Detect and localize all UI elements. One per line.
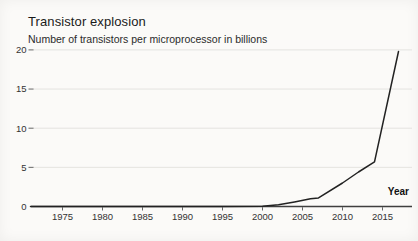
- x-axis-title: Year: [388, 186, 409, 197]
- y-tick-label: 0: [21, 201, 26, 212]
- x-tick-label: 1995: [212, 211, 233, 222]
- x-tick-label: 2015: [372, 211, 393, 222]
- x-tick-label: 1985: [132, 211, 153, 222]
- x-tick-label: 1975: [52, 211, 73, 222]
- x-tick-label: 1990: [172, 211, 193, 222]
- y-tick-label: 5: [21, 162, 26, 173]
- chart-card: Transistor explosion Number of transisto…: [0, 0, 418, 241]
- transistor-line-chart: 0510152019751980198519901995200020052010…: [0, 0, 418, 241]
- y-tick-label: 15: [16, 83, 27, 94]
- x-tick-label: 2005: [292, 211, 313, 222]
- y-tick-label: 20: [16, 44, 27, 55]
- data-line: [31, 52, 399, 207]
- x-tick-label: 2010: [332, 211, 353, 222]
- x-tick-label: 2000: [252, 211, 273, 222]
- y-tick-label: 10: [16, 123, 27, 134]
- x-tick-label: 1980: [92, 211, 113, 222]
